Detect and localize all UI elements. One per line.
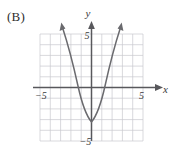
figure-screenshot: (B) bbox=[0, 0, 179, 162]
curve-arrow-right bbox=[118, 23, 124, 32]
coordinate-plane-figure: y x 5 −5 −5 5 bbox=[0, 0, 179, 162]
y-axis-label: y bbox=[85, 7, 91, 19]
y-tick-label-positive-5: 5 bbox=[85, 30, 90, 41]
x-axis-label: x bbox=[162, 83, 168, 95]
y-tick-label-negative-5: −5 bbox=[80, 136, 92, 147]
curve-arrow-left bbox=[60, 23, 66, 32]
x-tick-label-negative-5: −5 bbox=[35, 90, 47, 101]
x-tick-label-positive-5: 5 bbox=[139, 90, 144, 101]
